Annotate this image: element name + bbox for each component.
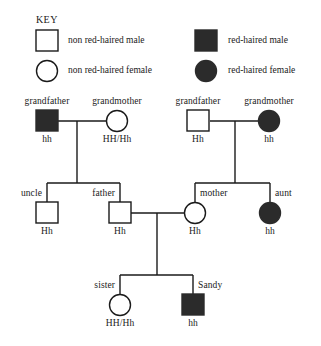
genotype-label-uncle: Hh bbox=[41, 226, 53, 237]
key-label-non-red-haired-male: non red-haired male bbox=[68, 35, 145, 45]
genotype-label-paternal-grandmother: HH/Hh bbox=[103, 134, 131, 145]
pedigree-diagram-canvas bbox=[0, 0, 321, 346]
name-label-paternal-grandfather: grandfather bbox=[25, 96, 70, 107]
key-label-non-red-haired-female: non red-haired female bbox=[68, 65, 152, 75]
key-label-red-haired-male: red-haired male bbox=[228, 35, 288, 45]
key-title: KEY bbox=[36, 14, 58, 25]
name-label-mother: mother bbox=[200, 188, 228, 199]
symbol-paternal-grandmother bbox=[107, 111, 128, 132]
symbol-paternal-grandfather bbox=[36, 110, 58, 131]
pedigree-chart: KEY non red-haired male non red-haired f… bbox=[0, 0, 321, 346]
name-label-sister: sister bbox=[94, 280, 115, 291]
genotype-label-mother: Hh bbox=[189, 226, 201, 237]
symbol-maternal-grandfather bbox=[187, 110, 209, 131]
filled-square-icon bbox=[195, 30, 217, 51]
genotype-label-sister: HH/Hh bbox=[106, 318, 134, 329]
genotype-label-aunt: hh bbox=[265, 226, 275, 237]
genotype-label-father: Hh bbox=[114, 226, 126, 237]
symbol-aunt bbox=[260, 203, 281, 224]
name-label-sandy: Sandy bbox=[198, 280, 222, 291]
open-square-icon bbox=[36, 30, 58, 51]
open-circle-icon bbox=[37, 61, 58, 82]
name-label-uncle: uncle bbox=[21, 188, 42, 199]
filled-circle-icon bbox=[196, 61, 217, 82]
name-label-father: father bbox=[92, 188, 115, 199]
symbol-sister bbox=[110, 295, 131, 316]
symbol-father bbox=[109, 202, 131, 223]
genotype-label-maternal-grandfather: Hh bbox=[192, 134, 204, 145]
key-label-red-haired-female: red-haired female bbox=[228, 65, 295, 75]
name-label-aunt: aunt bbox=[275, 188, 292, 199]
symbol-mother bbox=[185, 203, 206, 224]
name-label-maternal-grandmother: grandmother bbox=[244, 96, 294, 107]
name-label-maternal-grandfather: grandfather bbox=[176, 96, 221, 107]
genotype-label-maternal-grandmother: hh bbox=[264, 134, 274, 145]
genotype-label-sandy: hh bbox=[188, 318, 198, 329]
genotype-label-paternal-grandfather: hh bbox=[42, 134, 52, 145]
symbol-sandy bbox=[182, 294, 204, 315]
name-label-paternal-grandmother: grandmother bbox=[92, 96, 142, 107]
symbol-maternal-grandmother bbox=[259, 111, 280, 132]
symbol-uncle bbox=[36, 202, 58, 223]
